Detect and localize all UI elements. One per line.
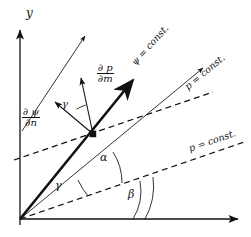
angle-beta-label: β: [128, 189, 134, 200]
thick-psi-const-streamline: [20, 80, 133, 219]
angle-gamma-node-label: γ: [62, 99, 68, 109]
thin-gradient-line-right: [20, 68, 203, 219]
arc-gamma-origin: [78, 180, 88, 196]
dp-dm-denominator: ∂m: [97, 73, 114, 84]
angle-alpha-label: α: [100, 152, 107, 163]
dpsi-dn-denominator: ∂n: [22, 117, 40, 128]
dp-dm-numerator: ∂ p: [97, 63, 114, 73]
dpsi-dn-label: ∂ ψ ∂n: [22, 107, 40, 128]
dp-dm-label: ∂ p ∂m: [97, 63, 114, 84]
arc-alpha: [113, 152, 122, 183]
y-axis-label: y: [26, 7, 33, 19]
point-marker: [90, 131, 97, 138]
arc-beta: [145, 177, 154, 219]
dpsi-dn-numerator: ∂ ψ: [22, 107, 40, 117]
arc-beta-inner: [133, 181, 141, 219]
arc-gamma-node: [77, 105, 86, 109]
angle-gamma-origin-label: γ: [55, 180, 62, 191]
